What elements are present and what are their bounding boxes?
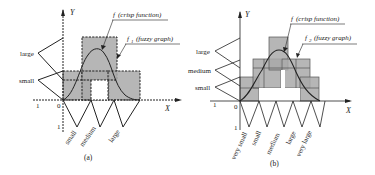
panel-b: Y X 0 1 1 large medium small very small … — [188, 10, 357, 168]
caption-b: (b) — [270, 159, 279, 168]
x-set-label-large-b: large — [285, 130, 298, 146]
origin-label-a: 0 — [57, 102, 61, 110]
y-set-large-a — [38, 38, 63, 80]
y-set-label-small-a: small — [19, 77, 34, 85]
fuzzy-graph-figure: Y X 0 1 1 large small small medium large… — [0, 0, 375, 175]
fuzzy-leader-line-a — [119, 44, 126, 56]
panel-b-gap-bottom — [259, 88, 300, 101]
x-set-label-medium-b: medium — [265, 131, 282, 156]
panel-b-gap-center — [281, 70, 285, 88]
fuzzy-label-text-a: (fuzzy graph) — [136, 35, 174, 43]
crisp-label-text-b: (crisp function) — [296, 15, 340, 23]
x-set-label-very-small-b: very small — [230, 131, 250, 161]
y-set-large-b — [215, 38, 240, 68]
fuzzy-box-very-large — [300, 77, 319, 101]
x-axis-arrow-a — [175, 98, 182, 102]
y-axis-arrow-a — [61, 9, 65, 16]
x-set-label-medium-a: medium — [78, 124, 98, 148]
y-axis-arrow-b — [238, 11, 242, 18]
panel-a: Y X 0 1 1 large small small medium large… — [19, 8, 182, 162]
fuzzy-leader-line-b — [298, 44, 303, 55]
fuzzy-label-text-b: (fuzzy graph) — [314, 34, 352, 42]
fuzzy-leader-arrow-a — [117, 54, 121, 59]
crisp-label-text-a: (crisp function) — [118, 11, 162, 19]
y-one-label-b: 1 — [234, 124, 238, 132]
crisp-label-f-a: f — [113, 11, 116, 19]
x-one-label-a: 1 — [36, 102, 40, 110]
y-set-label-medium-b: medium — [188, 67, 211, 75]
fuzzy-label-f-a: f — [127, 35, 130, 43]
y-set-small-b — [215, 77, 240, 101]
origin-label-b: 0 — [234, 103, 238, 111]
x-one-label-b: 1 — [213, 101, 217, 109]
y-one-label-a: 1 — [57, 123, 61, 131]
panel-a-gap — [91, 80, 108, 100]
caption-a: (a) — [84, 153, 93, 162]
x-set-label-small-b: small — [250, 130, 264, 147]
x-axis-label-a: X — [164, 104, 171, 113]
fuzzy-leader-arrow-b — [296, 53, 300, 58]
y-set-label-small-b: small — [195, 84, 210, 92]
y-set-label-large-a: large — [20, 50, 34, 58]
y-set-label-large-b: large — [196, 48, 210, 56]
fuzzy-label-sub-b: 2 — [309, 38, 312, 43]
fuzzy-box-large-small — [108, 71, 140, 100]
y-axis-label-a: Y — [70, 8, 76, 17]
x-axis-arrow-b — [345, 99, 352, 103]
crisp-label-f-b: f — [291, 15, 294, 23]
x-set-label-large-a: large — [107, 128, 122, 144]
fuzzy-label-sub-a: 1 — [131, 39, 134, 44]
x-set-label-small-a: small — [63, 129, 78, 146]
x-sets-a — [63, 100, 140, 127]
x-sets-b — [240, 101, 325, 127]
fuzzy-label-f-b: f — [305, 34, 308, 42]
x-axis-label-b: X — [345, 106, 352, 115]
y-axis-label-b: Y — [245, 10, 251, 19]
